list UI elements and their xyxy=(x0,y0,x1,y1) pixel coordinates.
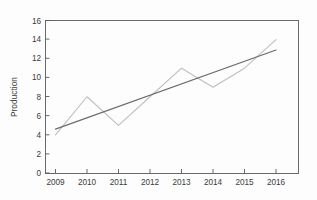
y-axis-title: Production xyxy=(9,77,19,117)
x-tick-label: 2013 xyxy=(172,178,191,187)
x-axis-tick-labels: 2009 2010 2011 2012 2013 2014 2015 2016 xyxy=(46,178,285,187)
y-axis-ticks xyxy=(46,21,50,174)
y-tick-label: 2 xyxy=(36,150,41,159)
y-tick-label: 10 xyxy=(32,73,42,82)
y-tick-label: 16 xyxy=(32,17,42,26)
x-tick-label: 2010 xyxy=(78,178,97,187)
x-tick-label: 2012 xyxy=(141,178,160,187)
data-series-line xyxy=(56,40,277,135)
chart-figure: 0 2 4 6 8 10 12 14 16 2009 2010 2011 201 xyxy=(0,0,317,200)
y-tick-label: 6 xyxy=(36,112,41,121)
y-axis-tick-labels: 0 2 4 6 8 10 12 14 16 xyxy=(32,17,42,179)
y-tick-label: 8 xyxy=(36,93,41,102)
y-tick-label: 14 xyxy=(32,35,42,44)
trend-line xyxy=(56,50,277,129)
x-axis-ticks xyxy=(56,169,277,173)
x-tick-label: 2011 xyxy=(110,178,128,187)
chart-plot-area: 0 2 4 6 8 10 12 14 16 2009 2010 2011 201 xyxy=(0,0,317,200)
y-tick-label: 0 xyxy=(36,169,41,178)
x-tick-label: 2016 xyxy=(267,178,286,187)
x-tick-label: 2014 xyxy=(204,178,223,187)
y-tick-label: 12 xyxy=(32,54,42,63)
plot-frame xyxy=(46,21,299,174)
x-tick-label: 2015 xyxy=(235,178,254,187)
x-tick-label: 2009 xyxy=(46,178,65,187)
y-tick-label: 4 xyxy=(36,131,41,140)
